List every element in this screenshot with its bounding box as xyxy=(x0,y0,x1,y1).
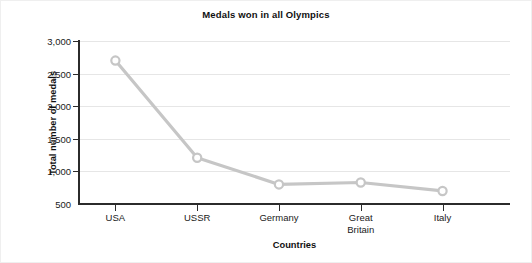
x-axis-tick-label-line: USSR xyxy=(152,212,242,224)
data-point-marker xyxy=(275,180,283,188)
y-axis-tick xyxy=(73,106,79,107)
y-axis-tick xyxy=(73,41,79,42)
x-axis-tick-label: USA xyxy=(70,212,160,224)
x-axis-tick-label: Italy xyxy=(398,212,488,224)
series-line-chart xyxy=(0,0,532,263)
data-point-marker xyxy=(193,154,201,162)
series-markers xyxy=(111,56,446,195)
series-polyline xyxy=(115,61,442,191)
x-axis-tick xyxy=(361,205,362,211)
x-axis-tick-label: GreatBritain xyxy=(316,212,406,235)
x-axis-tick-label-line: USA xyxy=(70,212,160,224)
x-axis-tick xyxy=(115,205,116,211)
data-point-marker xyxy=(438,187,446,195)
x-axis-tick xyxy=(443,205,444,211)
data-point-marker xyxy=(111,56,119,64)
x-axis-tick-label-line: Germany xyxy=(234,212,324,224)
y-axis-tick xyxy=(73,139,79,140)
x-axis-tick-label: USSR xyxy=(152,212,242,224)
x-axis-tick-label-line: Great xyxy=(316,212,406,224)
x-axis-tick-label: Germany xyxy=(234,212,324,224)
x-axis-tick-label-line: Italy xyxy=(398,212,488,224)
y-axis-tick xyxy=(73,74,79,75)
y-axis-tick xyxy=(73,171,79,172)
x-axis-title: Countries xyxy=(79,240,510,250)
x-axis-tick xyxy=(279,205,280,211)
data-point-marker xyxy=(357,178,365,186)
x-axis-tick-label-line: Britain xyxy=(316,224,406,236)
x-axis-tick xyxy=(197,205,198,211)
chart-figure: Medals won in all Olympics 5001,0001,500… xyxy=(0,0,532,263)
